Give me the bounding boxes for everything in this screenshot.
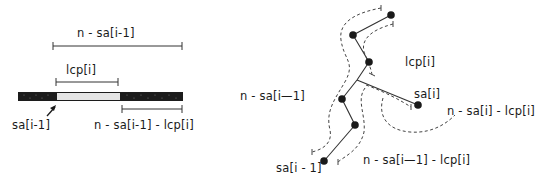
tree-edges — [324, 15, 418, 161]
dash-end-ticks — [312, 5, 411, 165]
node — [349, 31, 357, 39]
label-remainder-span: n - sa[i-1] - lcp[i] — [94, 118, 194, 132]
label-sa-i-remainder: n - sa[i] - lcp[i] — [447, 104, 535, 118]
label-top-span: n - sa[i-1] — [77, 26, 135, 40]
node-sa-i — [414, 101, 422, 109]
remainder-span-marker — [122, 105, 182, 113]
label-start-pointer: sa[i-1] — [12, 118, 50, 132]
top-span-marker — [53, 42, 182, 50]
label-left-path: n - sa[i—1] — [240, 89, 305, 103]
pointer-arrow-icon — [47, 105, 56, 116]
label-sa-prev-remainder: n - sa[i—1] - lcp[i] — [363, 153, 470, 167]
node — [387, 11, 395, 19]
node — [365, 58, 373, 66]
lcp-span-marker — [56, 78, 118, 86]
string-bar — [18, 92, 183, 101]
label-sa-i: sa[i] — [414, 87, 440, 101]
label-lcp-span: lcp[i] — [66, 63, 96, 77]
dashed-paths — [312, 8, 455, 162]
label-sa-prev: sa[i - 1] — [276, 161, 322, 175]
label-lcp: lcp[i] — [405, 55, 435, 69]
node — [338, 95, 346, 103]
node — [351, 121, 359, 129]
